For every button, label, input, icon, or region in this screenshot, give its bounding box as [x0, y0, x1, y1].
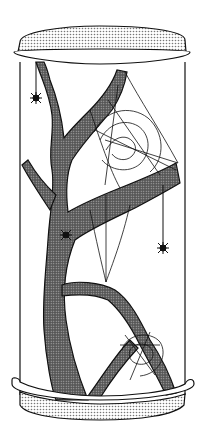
terrarium-illustration	[0, 0, 201, 432]
branch	[22, 62, 180, 400]
spider-on-branch-icon	[60, 230, 72, 240]
lid	[14, 26, 190, 64]
